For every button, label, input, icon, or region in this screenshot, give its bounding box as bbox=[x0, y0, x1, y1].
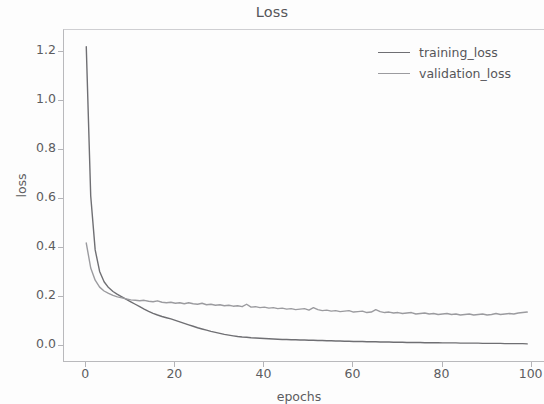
line-training-loss bbox=[86, 47, 527, 344]
legend-line-swatch-validation bbox=[378, 73, 410, 74]
chart-figure: Loss loss epochs 0.00.20.40.60.81.01.2 0… bbox=[0, 0, 544, 404]
legend-label-validation-loss: validation_loss bbox=[419, 66, 511, 81]
x-tick-mark bbox=[531, 362, 532, 367]
x-tick-mark bbox=[85, 362, 86, 367]
chart-legend: training_loss validation_loss bbox=[378, 42, 544, 84]
legend-line-swatch-training bbox=[378, 52, 410, 53]
x-tick-mark bbox=[352, 362, 353, 367]
x-tick-mark bbox=[442, 362, 443, 367]
x-tick-mark bbox=[263, 362, 264, 367]
x-tick-label: 20 bbox=[144, 366, 204, 381]
legend-item-validation-loss: validation_loss bbox=[378, 63, 544, 84]
x-tick-label: 0 bbox=[55, 366, 115, 381]
x-tick-label: 60 bbox=[322, 366, 382, 381]
legend-item-training-loss: training_loss bbox=[378, 42, 544, 63]
x-tick-label: 80 bbox=[412, 366, 472, 381]
x-tick-label: 100 bbox=[501, 366, 544, 381]
line-validation-loss bbox=[86, 243, 527, 315]
x-tick-label: 40 bbox=[233, 366, 293, 381]
x-tick-mark bbox=[174, 362, 175, 367]
legend-label-training-loss: training_loss bbox=[419, 45, 498, 60]
